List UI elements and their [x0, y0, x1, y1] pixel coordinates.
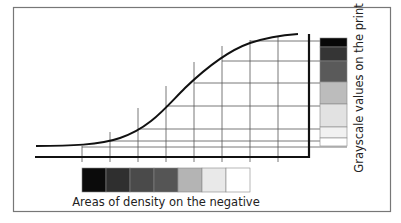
negative-swatch — [154, 168, 178, 192]
y-axis-label: Grayscale values on the print — [352, 3, 366, 173]
characteristic-curve-diagram: Areas of density on the negative Graysca… — [0, 0, 401, 223]
print-swatch — [320, 47, 347, 61]
negative-density-scale — [82, 168, 250, 192]
print-swatch — [320, 38, 347, 47]
print-swatch — [320, 127, 347, 138]
negative-swatch — [226, 168, 250, 192]
negative-swatch — [130, 168, 154, 192]
print-swatch — [320, 138, 347, 146]
negative-swatch — [82, 168, 106, 192]
negative-swatch — [106, 168, 130, 192]
negative-swatch — [202, 168, 226, 192]
print-swatch — [320, 61, 347, 82]
print-grayscale-scale — [320, 38, 347, 146]
negative-swatch — [178, 168, 202, 192]
x-axis-label: Areas of density on the negative — [72, 195, 259, 209]
print-swatch — [320, 82, 347, 104]
print-swatch — [320, 104, 347, 127]
